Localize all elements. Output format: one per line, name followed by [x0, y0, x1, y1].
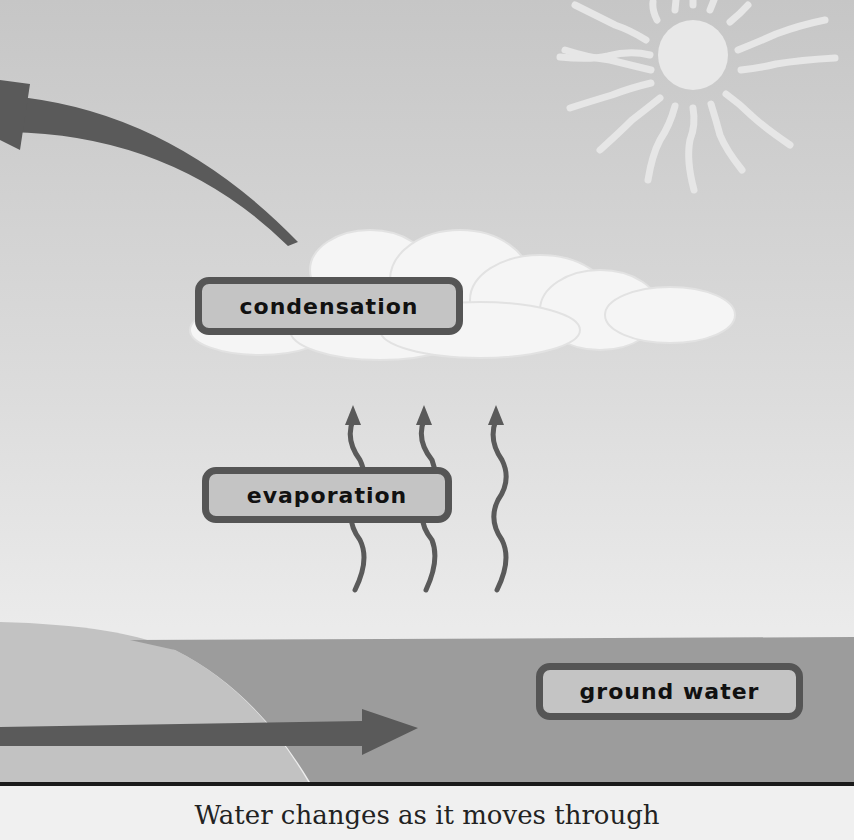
divider-line	[0, 782, 854, 786]
water-cycle-diagram: condensation evaporation ground water	[0, 0, 854, 785]
condensation-label: condensation	[195, 277, 463, 335]
condensation-text: condensation	[240, 294, 419, 319]
evaporation-label: evaporation	[202, 467, 452, 523]
caption-text: Water changes as it moves through	[0, 800, 854, 830]
ground-water-text: ground water	[580, 679, 760, 704]
evaporation-text: evaporation	[247, 483, 408, 508]
ground-water-label: ground water	[536, 663, 803, 720]
